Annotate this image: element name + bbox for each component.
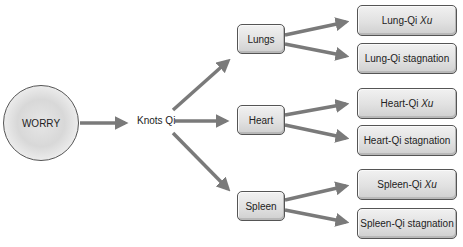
arrow-spleen-to-xu (285, 186, 346, 200)
lung-qi-xu-suffix: Xu (420, 15, 432, 26)
heart-qi-stagnation-node: Heart-Qi stagnation (357, 125, 457, 156)
lungs-label: Lungs (247, 34, 274, 45)
heart-label: Heart (249, 115, 273, 126)
spleen-qi-xu-node: Spleen-Qi Xu (357, 169, 457, 200)
heart-qi-xu-prefix: Heart-Qi (381, 98, 419, 109)
lung-qi-xu-node: Lung-Qi Xu (357, 5, 457, 36)
arrow-knots-qi-to-spleen (173, 133, 228, 189)
arrow-heart-to-xu (285, 104, 346, 115)
heart-node: Heart (237, 105, 285, 135)
arrow-knots-qi-to-lungs (173, 61, 228, 110)
spleen-qi-stagnation-node: Spleen-Qi stagnation (357, 208, 457, 239)
lung-qi-stagnation-label: Lung-Qi stagnation (365, 53, 450, 64)
worry-node: WORRY (3, 85, 79, 161)
heart-qi-stagnation-label: Heart-Qi stagnation (364, 135, 451, 146)
arrow-lungs-to-xu (285, 22, 346, 35)
arrow-spleen-to-stagnation (285, 210, 346, 222)
lung-qi-stagnation-node: Lung-Qi stagnation (357, 43, 457, 74)
spleen-qi-xu-suffix: Xu (425, 179, 437, 190)
worry-label: WORRY (22, 118, 60, 129)
spleen-qi-xu-prefix: Spleen-Qi (377, 179, 421, 190)
heart-qi-xu-node: Heart-Qi Xu (357, 88, 457, 119)
heart-qi-xu-suffix: Xu (421, 98, 433, 109)
arrow-heart-to-stagnation (285, 125, 346, 138)
spleen-node: Spleen (237, 191, 285, 221)
spleen-qi-stagnation-label: Spleen-Qi stagnation (360, 218, 453, 229)
lung-qi-xu-prefix: Lung-Qi (382, 15, 418, 26)
arrow-lungs-to-stagnation (285, 44, 346, 56)
knots-qi-label: Knots Qi (137, 115, 175, 126)
spleen-label: Spleen (245, 201, 276, 212)
lungs-node: Lungs (237, 24, 285, 54)
